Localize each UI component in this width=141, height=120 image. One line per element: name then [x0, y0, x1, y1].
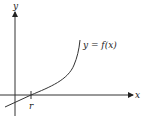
root-label: r — [29, 101, 34, 111]
y-axis-label: y — [12, 1, 19, 11]
x-axis-label: x — [135, 90, 140, 100]
function-root-diagram: y x y = f(x) r — [0, 0, 141, 120]
function-curve — [5, 40, 80, 107]
curve-label: y = f(x) — [82, 40, 117, 50]
